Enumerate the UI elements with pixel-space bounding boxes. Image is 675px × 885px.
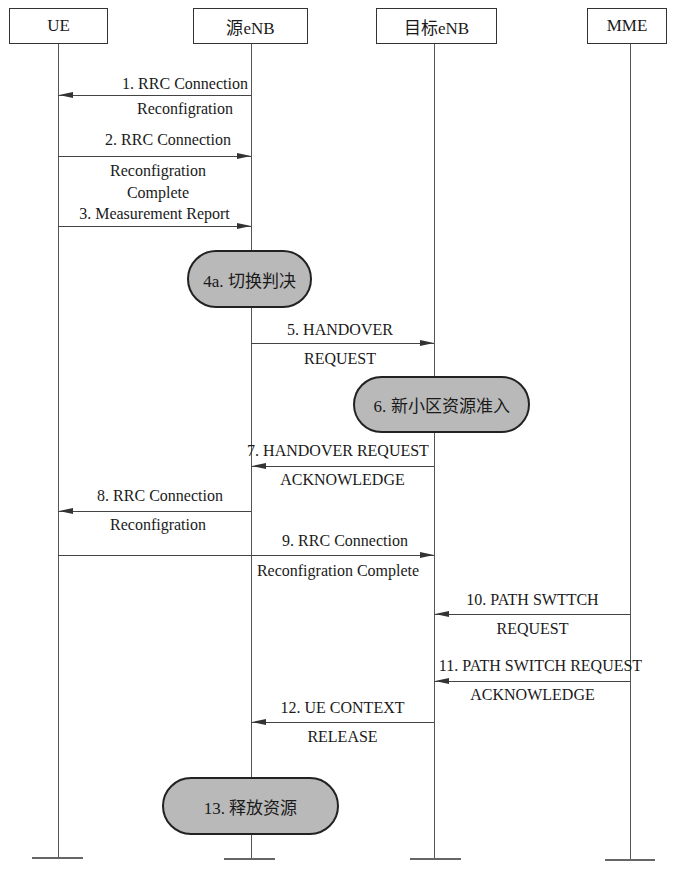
message-9-arrow [58,555,434,556]
lifeline-end-target-enb [410,858,461,860]
message-1-arrow [58,95,251,96]
action-6-new-cell-admission: 6. 新小区资源准入 [353,376,530,433]
message-12-arrow [251,722,434,723]
action-13-release-resources: 13. 释放资源 [162,777,339,835]
message-1-label-line2: Reconfigration [95,99,275,119]
arrowhead-left-icon [252,463,266,469]
message-12-label-line1: 12. UE CONTEXT [255,698,430,718]
message-3-arrow [58,226,251,227]
actor-ue: UE [9,8,108,44]
action-4a-handover-decision: 4a. 切换判决 [187,250,312,308]
message-9-label-line1: 9. RRC Connection [255,531,435,551]
message-5-arrow [251,343,434,344]
message-11-label-line2: ACKNOWLEDGE [440,685,625,705]
arrowhead-right-icon [237,223,251,229]
actor-target-enb: 目标eNB [376,8,497,44]
message-7-arrow [251,466,434,467]
arrowhead-right-icon [420,340,434,346]
message-2-arrow [58,156,251,157]
message-8-label-line2: Reconfigration [68,515,248,535]
message-10-arrow [434,614,630,615]
message-2-label-line1: 2. RRC Connection [78,130,258,150]
message-12-label-line2: RELEASE [255,727,430,747]
arrowhead-left-icon [435,611,449,617]
message-7-label-line1: 7. HANDOVER REQUEST [218,441,458,461]
arrowhead-left-icon [59,508,73,514]
message-11-arrow [434,681,630,682]
lifeline-end-ue [32,857,83,859]
actor-mme: MME [587,8,667,44]
message-7-label-line2: ACKNOWLEDGE [251,470,434,490]
arrowhead-right-icon [237,153,251,159]
arrowhead-right-icon [420,552,434,558]
message-2-label-line3: Complete [68,183,248,203]
message-3-label: 3. Measurement Report [58,204,251,224]
message-5-label-line1: 5. HANDOVER [260,320,420,340]
lifeline-end-source-enb [224,858,275,860]
message-10-label-line2: REQUEST [440,619,625,639]
message-10-label-line1: 10. PATH SWTTCH [440,590,625,610]
message-1-label-line1: 1. RRC Connection [95,74,275,94]
lifeline-end-mme [605,859,655,861]
arrowhead-left-icon [435,678,449,684]
lifeline-ue [58,44,59,858]
arrowhead-left-icon [59,92,73,98]
arrowhead-left-icon [252,719,266,725]
message-9-label-line2: Reconfigration Complete [238,561,438,581]
message-11-label-line1: 11. PATH SWITCH REQUEST [418,656,663,676]
message-5-label-line2: REQUEST [260,349,420,369]
lifeline-mme [630,44,631,859]
message-8-arrow [58,511,251,512]
message-2-label-line2: Reconfigration [68,161,248,181]
actor-source-enb: 源eNB [193,8,308,44]
message-8-label-line1: 8. RRC Connection [70,486,250,506]
